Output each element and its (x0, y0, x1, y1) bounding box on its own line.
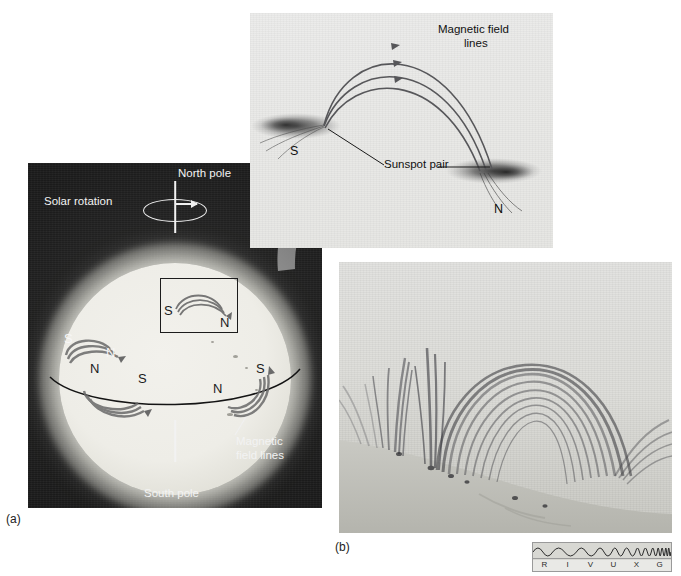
polarity-label-n-south-right: N (213, 381, 222, 396)
polarity-label-s-south-right: S (256, 361, 265, 376)
inset-polarity-label-s: S (290, 145, 298, 158)
spectrum-band-g: G (648, 559, 671, 571)
panel-b-tag: (b) (335, 540, 350, 554)
polarity-label-n-callout: N (220, 315, 229, 330)
panel-inset-sunspot-magnetogram: Magnetic field lines Sunspot pair S N (250, 13, 553, 248)
spectrum-band-r: R (533, 559, 556, 571)
inset-graphics (250, 13, 553, 248)
spectrum-band-u: U (602, 559, 625, 571)
inset-magnetic-field-lines-label-line1: Magnetic field (438, 23, 509, 36)
polarity-label-n-north-left: N (106, 345, 115, 360)
spectrum-band-labels: R I V U X G (533, 558, 671, 571)
electromagnetic-spectrum-bar: R I V U X G (532, 542, 672, 572)
figure-root: North pole Solar rotation South pole Mag… (0, 0, 681, 576)
inset-polarity-label-n: N (494, 203, 503, 216)
polarity-label-s-callout: S (164, 303, 173, 318)
panel-b-coronal-loops-photo (339, 262, 672, 533)
inset-magnetic-field-lines-label-line2: lines (464, 37, 488, 50)
sunspot-pair-label: Sunspot pair (384, 158, 449, 171)
polarity-label-s-north-left: S (64, 331, 73, 346)
polarity-label-n-south-left: N (90, 361, 99, 376)
panel-a-tag: (a) (6, 512, 21, 526)
spectrum-band-i: I (556, 559, 579, 571)
spectrum-band-x: X (625, 559, 648, 571)
coronal-loop-structures (339, 262, 672, 533)
polarity-label-s-south-left: S (138, 371, 147, 386)
spectrum-band-v: V (579, 559, 602, 571)
